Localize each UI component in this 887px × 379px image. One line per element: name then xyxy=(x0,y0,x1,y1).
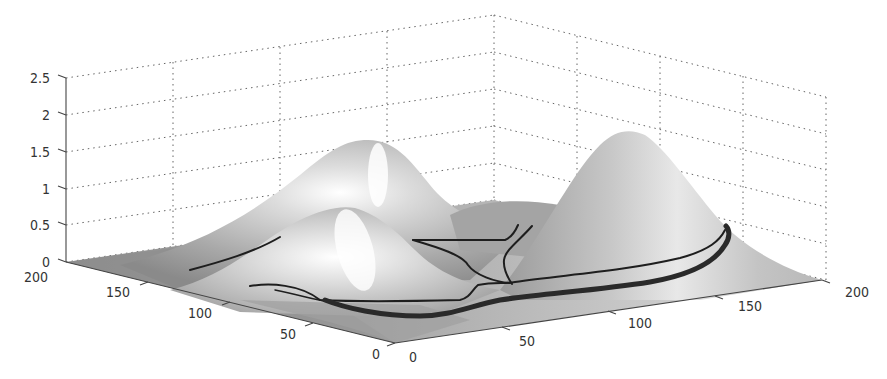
svg-text:0.5: 0.5 xyxy=(30,217,50,233)
svg-text:200: 200 xyxy=(845,284,869,300)
svg-text:2.5: 2.5 xyxy=(30,70,50,86)
svg-text:2: 2 xyxy=(42,107,50,123)
svg-text:1: 1 xyxy=(42,181,50,197)
svg-text:50: 50 xyxy=(519,333,535,349)
svg-text:50: 50 xyxy=(280,326,296,342)
svg-text:0: 0 xyxy=(409,349,417,365)
svg-text:200: 200 xyxy=(24,269,48,285)
z-tick-labels: 0 0.5 1 1.5 2 2.5 xyxy=(30,70,50,270)
svg-text:150: 150 xyxy=(738,298,762,314)
svg-text:100: 100 xyxy=(188,305,212,321)
surface-plot: 0 0.5 1 1.5 2 2.5 200 150 100 50 0 0 50 … xyxy=(0,0,887,379)
svg-text:150: 150 xyxy=(106,284,130,300)
svg-text:1.5: 1.5 xyxy=(30,144,50,160)
svg-text:0: 0 xyxy=(372,346,380,362)
svg-text:0: 0 xyxy=(42,254,50,270)
svg-text:100: 100 xyxy=(628,315,652,331)
surface xyxy=(66,131,822,343)
